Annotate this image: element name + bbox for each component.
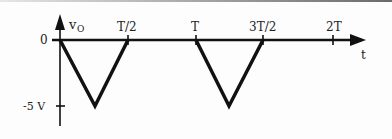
waveform-plot: v O 0 -5 V T/2 T 3T/2 2T t (0, 0, 392, 139)
min-label: -5 V (23, 100, 46, 113)
tick-label-T: T (191, 20, 199, 34)
pulse-2 (196, 40, 263, 106)
pulse-1 (60, 40, 128, 106)
x-axis-arrow-icon (350, 34, 366, 46)
tick-label-3half-T: 3T/2 (249, 20, 276, 34)
y-axis-label-sub: O (77, 24, 84, 34)
tick-label-2T: 2T (326, 20, 342, 34)
tick-label-half-T: T/2 (117, 20, 137, 34)
x-axis-label: t (361, 48, 366, 62)
y-axis-label: v (68, 17, 77, 32)
y-axis-arrow-icon (55, 14, 65, 30)
origin-label: 0 (40, 33, 48, 47)
waveform-diagram: v O 0 -5 V T/2 T 3T/2 2T t (0, 0, 392, 139)
